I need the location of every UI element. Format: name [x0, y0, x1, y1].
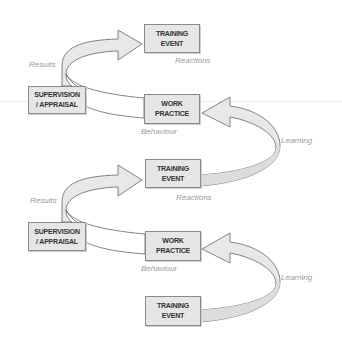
results-arrow-2	[62, 165, 142, 222]
work-practice-line2: PRACTICE	[155, 109, 189, 119]
supervision-line2: / APPRAISAL	[36, 237, 78, 247]
work-practice-line1: WORK	[161, 99, 182, 109]
training-event-box-1: TRAINING EVENT	[144, 24, 200, 53]
learning-arrow-2	[200, 233, 280, 322]
results-label-2: Results	[30, 196, 57, 205]
learning-arrow-1	[200, 97, 280, 186]
work-practice-line2: PRACTICE	[156, 246, 190, 256]
training-event-line2: EVENT	[162, 174, 184, 184]
reactions-label-1: Reactions	[175, 56, 211, 65]
training-event-box-2: TRAINING EVENT	[145, 159, 201, 188]
supervision-box-2: SUPERVISION / APPRAISAL	[28, 222, 86, 251]
supervision-box-1: SUPERVISION / APPRAISAL	[28, 86, 86, 114]
learning-label-2: Learning	[281, 273, 312, 282]
training-event-line1: TRAINING	[156, 29, 188, 39]
reactions-label-2: Reactions	[176, 193, 212, 202]
training-event-line1: TRAINING	[157, 164, 189, 174]
behaviour-label-2: Behaviour	[141, 264, 177, 273]
supervision-line2: / APPRAISAL	[36, 100, 78, 110]
training-event-line2: EVENT	[161, 39, 183, 49]
results-arrow-1	[62, 30, 142, 86]
training-event-box-3: TRAINING EVENT	[145, 296, 201, 326]
work-practice-box-2: WORK PRACTICE	[145, 231, 201, 261]
learning-label-1: Learning	[281, 136, 312, 145]
work-practice-line1: WORK	[162, 236, 183, 246]
training-event-line2: EVENT	[162, 311, 184, 321]
supervision-line1: SUPERVISION	[34, 227, 80, 237]
behaviour-label-1: Behaviour	[141, 127, 177, 136]
training-event-line1: TRAINING	[157, 301, 189, 311]
results-label-1: Results	[29, 60, 56, 69]
supervision-line1: SUPERVISION	[34, 90, 80, 100]
work-practice-box-1: WORK PRACTICE	[144, 94, 200, 124]
